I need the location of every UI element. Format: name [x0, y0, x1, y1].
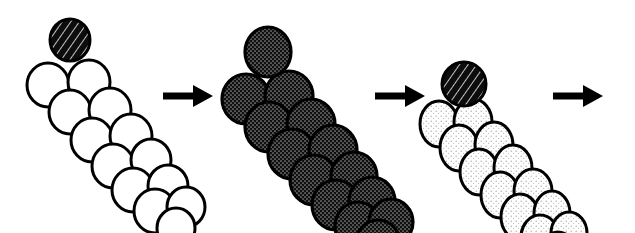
diagram-svg: [0, 0, 635, 233]
cap-bead-dark-hatched: [50, 19, 90, 61]
bead-13: [157, 208, 195, 233]
cap-bead-dark-stippled: [245, 27, 291, 77]
figure-canvas: [0, 0, 635, 233]
cap-bead-dark-hatched: [442, 62, 486, 106]
